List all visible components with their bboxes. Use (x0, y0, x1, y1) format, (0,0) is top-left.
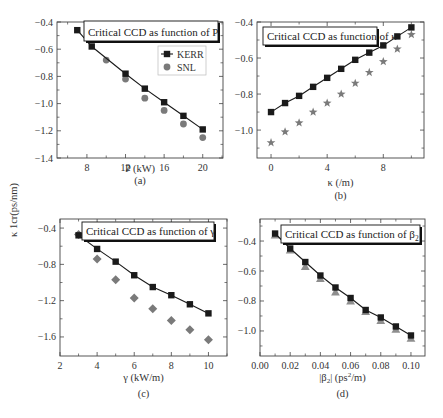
star-marker (295, 118, 304, 126)
y-tick-label: −0.6 (35, 44, 53, 55)
y-tick-label: −0.8 (238, 295, 256, 306)
x-tick-label: 4 (95, 360, 100, 371)
square-marker (317, 272, 323, 278)
x-tick-label: 0.04 (312, 360, 330, 371)
square-marker (94, 246, 100, 252)
star-marker (407, 30, 416, 38)
square-marker (302, 259, 308, 265)
star-marker (337, 89, 346, 97)
chart-figure: 8121620−0.4−0.6−0.8−1.0−1.2−1.4Critical … (0, 0, 443, 418)
x-tick-label: 0.00 (251, 360, 269, 371)
x-tick-label: 8 (84, 162, 89, 173)
x-tick-label: 6 (132, 360, 137, 371)
diamond-marker (167, 316, 176, 325)
square-marker (272, 230, 278, 236)
square-marker (310, 84, 316, 90)
square-marker (180, 113, 186, 119)
square-marker (268, 109, 274, 115)
y-tick-label: −0.8 (235, 89, 253, 100)
panel-title-text: Critical CCD as function of κ (267, 30, 397, 42)
square-marker (74, 27, 80, 33)
y-tick-label: −0.4 (238, 236, 256, 247)
panel-label: (c) (138, 388, 150, 400)
square-marker (393, 323, 399, 329)
series-snl (267, 30, 416, 146)
panel-label: (a) (134, 175, 146, 187)
panel-b: 048−0.4−0.6−0.8−1.0Critical CCD as funct… (235, 17, 424, 203)
panel-a: 8121620−0.4−0.6−0.8−1.0−1.2−1.4Critical … (35, 17, 223, 188)
square-marker (324, 75, 330, 81)
star-marker (393, 44, 402, 52)
circle-marker (141, 95, 148, 102)
y-tick-label: −0.4 (235, 17, 253, 28)
y-tick-label: −1.0 (235, 125, 253, 136)
x-axis-label: P (kW) (125, 163, 156, 175)
y-tick-label: −0.8 (38, 259, 56, 270)
diamond-marker (111, 275, 120, 284)
square-marker (122, 70, 128, 76)
y-tick-label: −1.2 (35, 125, 53, 136)
y-tick-label: −1.0 (238, 325, 256, 336)
y-tick-label: −1.6 (38, 331, 56, 342)
legend-label: KERR (177, 49, 204, 60)
square-marker (362, 307, 368, 313)
x-axis-label: κ (/m) (328, 177, 354, 189)
y-tick-label: −0.6 (235, 53, 253, 64)
square-marker (352, 57, 358, 63)
square-marker (75, 232, 81, 238)
panel-label: (d) (336, 388, 349, 400)
x-tick-label: 0.02 (281, 360, 299, 371)
x-tick-label: 0.06 (342, 360, 360, 371)
square-marker (187, 301, 193, 307)
figure: 8121620−0.4−0.6−0.8−1.0−1.2−1.4Critical … (0, 0, 443, 418)
star-marker (267, 138, 276, 146)
x-tick-label: 4 (325, 162, 330, 173)
square-marker (200, 126, 206, 132)
diamond-marker (93, 254, 102, 263)
x-tick-label: 8 (381, 162, 386, 173)
diamond-marker (204, 335, 213, 344)
x-tick-label: 0 (269, 162, 274, 173)
y-tick-label: −1.2 (38, 295, 56, 306)
square-marker (142, 85, 148, 91)
star-marker (323, 98, 332, 106)
square-marker (168, 292, 174, 298)
star-marker (351, 79, 360, 87)
panel-title: Critical CCD as function of P (84, 21, 220, 43)
square-marker (282, 100, 288, 106)
square-marker (131, 272, 137, 278)
star-marker (281, 127, 290, 135)
y-tick-label: −1.0 (35, 98, 53, 109)
x-tick-label: 0.08 (372, 360, 390, 371)
series-line (275, 234, 411, 336)
star-marker (379, 57, 388, 65)
panel-label: (b) (334, 190, 347, 202)
square-marker (408, 24, 414, 30)
diamond-marker (185, 325, 194, 334)
square-marker (366, 49, 372, 55)
y-tick-label: −0.6 (238, 266, 256, 277)
legend: KERRSNL (158, 46, 206, 75)
square-marker (408, 332, 414, 338)
y-tick-label: −0.8 (35, 71, 53, 82)
square-marker (347, 295, 353, 301)
square-marker (380, 42, 386, 48)
series-kerr (272, 230, 414, 338)
square-marker (205, 310, 211, 316)
circle-marker (180, 121, 187, 128)
x-axis-label: |β2| (ps2/m) (319, 371, 366, 385)
panel-d: 0.000.020.040.060.080.10−0.4−0.6−0.8−1.0… (238, 219, 425, 400)
y-axis-label: κ 1cr(ps/nm) (8, 183, 20, 237)
x-tick-label: 16 (159, 162, 169, 173)
square-marker (338, 66, 344, 72)
panel-title: Critical CCD as function of κ (263, 27, 397, 47)
y-tick-label: −1.4 (35, 153, 53, 164)
star-marker (309, 107, 318, 115)
square-marker (287, 245, 293, 251)
diamond-marker (148, 304, 157, 313)
legend-label: SNL (177, 62, 196, 73)
x-tick-label: 2 (58, 360, 63, 371)
square-marker (296, 93, 302, 99)
square-marker (112, 258, 118, 264)
x-tick-label: 8 (169, 360, 174, 371)
